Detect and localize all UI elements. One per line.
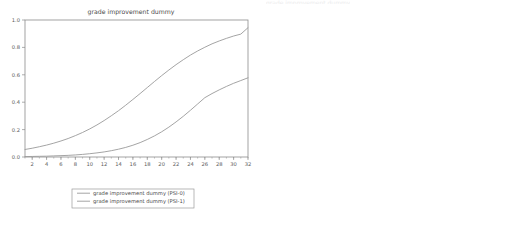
left-chart-svg: grade improvement dummy 2468101214161820…: [0, 0, 262, 225]
x-tick-label: 14: [115, 161, 122, 167]
y-tick-label: 0.4: [12, 99, 21, 105]
x-tick-label: 16: [130, 161, 137, 167]
plot-frame: [25, 20, 248, 157]
left-chart-title: grade improvement dummy: [87, 8, 174, 16]
chart-panel-left: grade improvement dummy 2468101214161820…: [0, 0, 262, 225]
x-tick-label: 10: [86, 161, 93, 167]
x-tick-label: 26: [202, 161, 209, 167]
x-tick-label: 12: [101, 161, 108, 167]
y-tick-label: 0.0: [12, 154, 20, 160]
x-tick-label: 18: [144, 161, 151, 167]
series-curve-0: [25, 28, 248, 150]
x-tick-label: 24: [187, 161, 194, 167]
legend-label-0: grade improvement dummy (PSI-0): [93, 190, 185, 197]
series-curve-1: [25, 78, 248, 157]
x-tick-label: 8: [74, 161, 77, 167]
figure-container: grade improvement dummy 2468101214161820…: [0, 0, 525, 225]
y-tick-label: 1.0: [12, 17, 20, 23]
y-tick-label: 0.8: [12, 44, 20, 50]
x-tick-label: 4: [45, 161, 49, 167]
x-tick-label: 2: [31, 161, 34, 167]
x-tick-label: 28: [216, 161, 223, 167]
right-clipped-title: grade improvement dummy: [266, 0, 350, 4]
x-tick-label: 22: [173, 161, 180, 167]
y-tick-label: 0.6: [12, 72, 20, 78]
x-tick-label: 20: [158, 161, 165, 167]
left-plot-area: 24681012141618202224262830320.00.20.40.6…: [12, 17, 252, 208]
legend-label-1: grade improvement dummy (PSI-1): [93, 198, 185, 205]
right-chart-svg: 2.02.22.42.62.83.03.23.43.63.80.00.20.40…: [262, 0, 525, 225]
x-tick-label: 32: [245, 161, 252, 167]
chart-panel-right: grade improvement dummy 2.02.22.42.62.83…: [262, 0, 525, 225]
x-tick-label: 6: [59, 161, 62, 167]
x-tick-label: 30: [230, 161, 237, 167]
y-tick-label: 0.2: [12, 127, 20, 133]
